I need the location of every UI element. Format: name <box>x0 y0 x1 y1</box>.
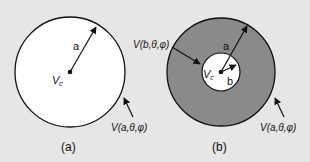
outer-surface-arrow-icon <box>275 98 284 117</box>
figure-canvas: a Vc V(a,θ,φ) (a) a b Vc V <box>0 0 310 162</box>
center-dot-icon <box>219 70 224 75</box>
outer-surface-potential-label-b: V(a,θ,φ) <box>260 122 296 133</box>
panel-a: a Vc V(a,θ,φ) (a) <box>15 17 147 154</box>
center-dot-icon <box>68 70 73 75</box>
sphere-potential-figure: a Vc V(a,θ,φ) (a) a b Vc V <box>0 0 310 162</box>
panel-b: a b Vc V(b,θ,φ) V(a,θ,φ) (b) <box>133 18 296 154</box>
surface-arrow-icon <box>124 98 133 117</box>
inner-surface-potential-label-b: V(b,θ,φ) <box>133 39 169 50</box>
surface-potential-label-a: V(a,θ,φ) <box>111 122 147 133</box>
caption-b: (b) <box>212 140 227 154</box>
inner-radius-label-b: b <box>227 75 233 87</box>
radius-label-a: a <box>73 40 80 52</box>
caption-a: (a) <box>61 140 76 154</box>
outer-radius-label-b: a <box>223 40 230 52</box>
